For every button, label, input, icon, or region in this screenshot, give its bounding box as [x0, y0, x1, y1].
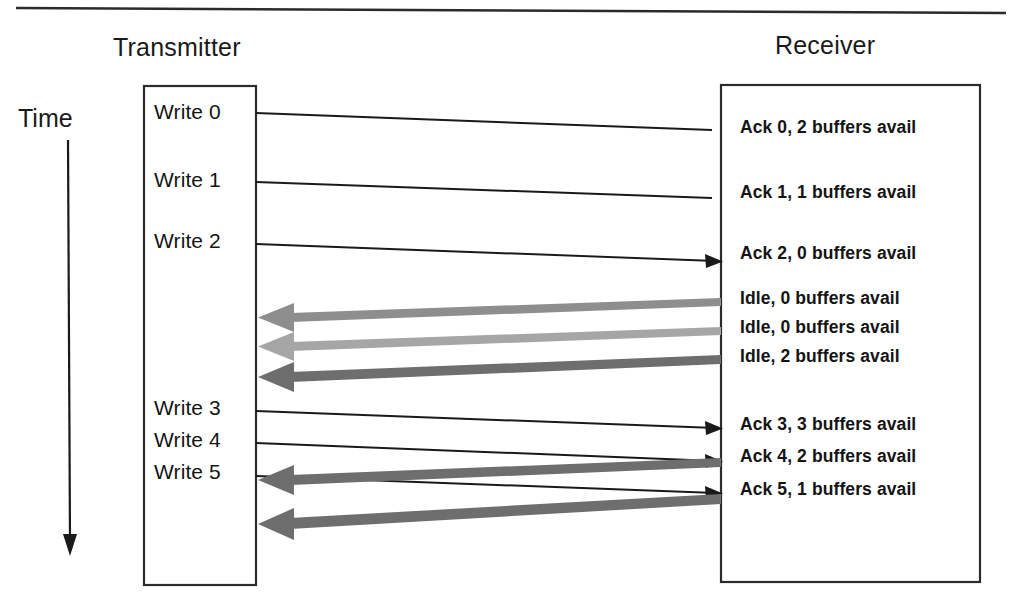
- receiver-event-ack-5: Ack 5, 1 buffers avail: [740, 479, 916, 500]
- message-idle-1: [258, 327, 721, 361]
- receiver-event-ack-2: Ack 2, 0 buffers avail: [740, 243, 916, 264]
- receiver-event-idle-0: Idle, 0 buffers avail: [740, 288, 900, 309]
- diagram-page: Transmitter Receiver Time Write 0 Write …: [0, 0, 1010, 616]
- transmitter-event-write-3: Write 3: [154, 396, 221, 420]
- transmitter-event-write-2: Write 2: [154, 229, 221, 253]
- message-write-2: [256, 244, 723, 268]
- receiver-event-ack-0: Ack 0, 2 buffers avail: [740, 117, 916, 138]
- receiver-event-ack-1: Ack 1, 1 buffers avail: [740, 182, 916, 203]
- transmitter-title: Transmitter: [113, 33, 241, 62]
- receiver-event-ack-3: Ack 3, 3 buffers avail: [740, 414, 916, 435]
- message-ack3-credit: [258, 458, 721, 495]
- receiver-event-idle-1: Idle, 0 buffers avail: [740, 317, 900, 338]
- transmitter-event-write-1: Write 1: [154, 168, 221, 192]
- message-write-0: [256, 113, 712, 130]
- receiver-title: Receiver: [775, 31, 875, 60]
- receiver-event-ack-4: Ack 4, 2 buffers avail: [740, 446, 916, 467]
- message-ack5-credit: [258, 494, 721, 540]
- message-write-3: [256, 411, 723, 435]
- message-write-1: [256, 182, 712, 198]
- transmitter-event-write-5: Write 5: [154, 460, 221, 484]
- transmitter-event-write-4: Write 4: [154, 428, 221, 452]
- transmitter-event-write-0: Write 0: [154, 100, 221, 124]
- message-idle-0: [258, 298, 721, 332]
- time-axis-label: Time: [18, 104, 73, 133]
- page-top-rule: [16, 8, 1006, 13]
- time-axis-arrow: [63, 140, 77, 556]
- message-idle-2: [258, 355, 721, 392]
- transmitter-box: [144, 86, 256, 585]
- receiver-event-idle-2: Idle, 2 buffers avail: [740, 346, 900, 367]
